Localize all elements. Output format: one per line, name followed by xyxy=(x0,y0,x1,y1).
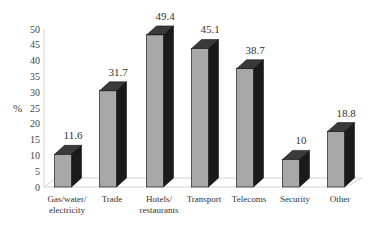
bar-value-label: 45.1 xyxy=(200,23,219,35)
y-axis: 05101520253035404550 xyxy=(30,24,44,193)
y-tick-label: 25 xyxy=(30,103,40,114)
y-tick-label: 50 xyxy=(30,24,40,35)
x-category-label: Security xyxy=(280,194,310,204)
x-category-label: Telecoms xyxy=(232,194,267,204)
y-tick-label: 10 xyxy=(30,150,40,161)
bar: 45.1 xyxy=(192,23,220,187)
x-category-label: Hotels/ xyxy=(146,194,172,204)
bar: 31.7 xyxy=(100,66,129,187)
y-tick-label: 20 xyxy=(30,118,40,129)
bar-value-label: 11.6 xyxy=(64,129,83,141)
y-tick-label: 0 xyxy=(35,182,40,193)
x-category-label: Transport xyxy=(187,194,222,204)
bar-chart: 05101520253035404550 % 11.631.749.445.13… xyxy=(0,0,390,226)
x-category-label: electricity xyxy=(49,205,85,215)
bar-value-label: 18.8 xyxy=(336,107,356,119)
bar-value-label: 49.4 xyxy=(155,10,175,22)
y-axis-label: % xyxy=(13,102,22,114)
bars: 11.631.749.445.138.71018.8 xyxy=(55,10,357,187)
bar: 38.7 xyxy=(237,44,266,187)
x-category-label: Gas/water/ xyxy=(48,194,87,204)
bar: 10 xyxy=(283,134,310,187)
x-category-label: restaurants xyxy=(140,205,179,215)
bar-value-label: 31.7 xyxy=(108,66,128,78)
bar-value-label: 10 xyxy=(296,134,308,146)
x-category-label: Other xyxy=(330,194,351,204)
y-tick-label: 15 xyxy=(30,134,40,145)
y-tick-label: 40 xyxy=(30,55,40,66)
bar: 18.8 xyxy=(328,107,357,187)
bar: 49.4 xyxy=(147,10,176,187)
y-tick-label: 35 xyxy=(30,71,40,82)
y-tick-label: 45 xyxy=(30,39,40,50)
x-category-label: Trade xyxy=(102,194,123,204)
x-axis-labels: Gas/water/electricityTradeHotels/restaur… xyxy=(48,194,351,215)
bar: 11.6 xyxy=(55,129,83,187)
y-tick-label: 30 xyxy=(30,87,40,98)
bar-value-label: 38.7 xyxy=(245,44,265,56)
y-tick-label: 5 xyxy=(35,166,40,177)
